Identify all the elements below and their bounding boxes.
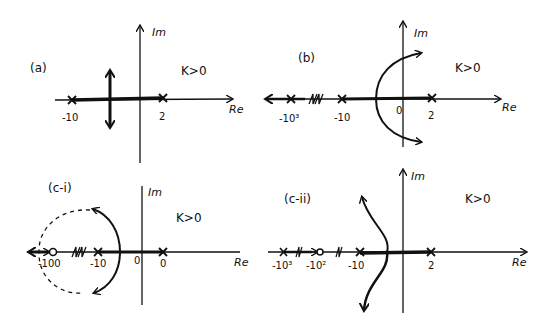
tick-label: 0: [396, 105, 402, 116]
tick-label: -10³: [279, 113, 299, 124]
tick-label: -10: [62, 112, 78, 123]
zero-marker: [50, 249, 57, 256]
im-label: Im: [414, 27, 428, 40]
tick-label: 0: [134, 255, 140, 266]
tick-label: -10³: [272, 260, 292, 271]
re-label: Re: [512, 256, 527, 269]
locus-branch-down: [364, 252, 387, 310]
tick-label: -100: [38, 258, 61, 269]
tick-label: 2: [428, 260, 434, 271]
tick-label: 2: [159, 111, 165, 122]
tick-label: 0: [160, 258, 166, 269]
locus-branch-up: [362, 197, 388, 252]
root-locus-diagram: (a) Im K>0 Re -10 2 (b) Im K>0 Re -10³ -…: [0, 0, 553, 330]
tick-label: -10²: [306, 260, 326, 271]
re-label: Re: [229, 103, 244, 116]
zero-marker: [317, 249, 323, 255]
locus-real-segment: [342, 98, 432, 99]
im-label: Im: [152, 26, 166, 39]
tick-label: -10: [90, 258, 106, 269]
im-label: Im: [148, 186, 162, 199]
panel-tag: (b): [298, 51, 315, 65]
panel-tag: (a): [30, 61, 47, 75]
panel-a: (a) Im K>0 Re -10 2: [30, 26, 244, 163]
panel-c-ii: (c-ii) Im K>0 Re -10³ -10² -10 2: [268, 170, 527, 313]
re-label: Re: [234, 256, 249, 269]
gain-condition: K>0: [181, 64, 207, 78]
gain-condition: K>0: [455, 61, 481, 75]
panel-c-i: (c-i) Im K>0 Re -100 -10 0 0: [27, 181, 249, 305]
locus-branch-up: [376, 53, 421, 99]
locus-real-segment: [360, 252, 431, 253]
gain-condition: K>0: [176, 211, 202, 225]
panel-b: (b) Im K>0 Re -10³ -10 0 2: [265, 22, 517, 147]
im-label: Im: [411, 170, 425, 183]
panel-tag: (c-i): [48, 181, 72, 195]
tick-label: -10: [348, 260, 364, 271]
tick-label: 2: [428, 110, 434, 121]
locus-arc-up: [93, 209, 120, 252]
locus-real-segment: [72, 98, 163, 100]
panel-tag: (c-ii): [284, 192, 311, 206]
tick-label: -10: [334, 112, 350, 123]
gain-condition: K>0: [465, 192, 491, 206]
re-label: Re: [502, 101, 517, 114]
